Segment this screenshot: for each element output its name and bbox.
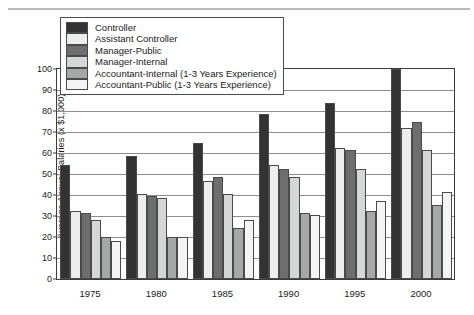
bar <box>432 205 442 279</box>
bar <box>279 169 289 279</box>
y-tick-label: 70 <box>42 127 52 137</box>
x-tick-label: 1985 <box>189 288 255 299</box>
y-tick-label: 50 <box>42 169 52 179</box>
legend-swatch <box>66 79 88 90</box>
y-tick-label: 20 <box>42 232 52 242</box>
bar <box>126 156 136 279</box>
legend-label: Manager-Public <box>95 45 162 56</box>
legend-item: Manager-Internal <box>66 56 277 67</box>
bar <box>233 228 243 279</box>
legend-label: Accountant-Internal (1-3 Years Experienc… <box>95 68 277 79</box>
bar-group: 1990 <box>256 69 322 279</box>
bar <box>401 128 411 279</box>
legend-item: Accountant-Public (1-3 Years Experience) <box>66 79 277 90</box>
plot-area: Average Annual Salaries (x $1,000) 01020… <box>56 68 455 280</box>
legend-swatch <box>66 68 88 79</box>
y-tick-label: 0 <box>47 274 52 284</box>
x-tick-label: 2000 <box>388 288 454 299</box>
bar <box>101 237 111 279</box>
legend-label: Accountant-Public (1-3 Years Experience) <box>95 79 271 90</box>
bar <box>244 220 254 279</box>
bars <box>322 69 388 279</box>
bar <box>223 194 233 279</box>
legend-swatch <box>66 45 88 56</box>
bars <box>123 69 189 279</box>
bar <box>167 237 177 279</box>
bar-group: 1995 <box>322 69 388 279</box>
chart-legend: ControllerAssistant ControllerManager-Pu… <box>60 17 284 95</box>
legend-item: Assistant Controller <box>66 33 277 44</box>
bar <box>412 122 422 279</box>
legend-label: Assistant Controller <box>95 33 177 44</box>
bars <box>189 69 255 279</box>
bars <box>57 69 123 279</box>
bar <box>60 165 70 279</box>
bar <box>391 69 401 279</box>
bar <box>310 215 320 279</box>
legend-item: Accountant-Internal (1-3 Years Experienc… <box>66 68 277 79</box>
bar <box>111 241 121 279</box>
bar-group: 1985 <box>189 69 255 279</box>
bar <box>356 169 366 279</box>
bar-group: 1975 <box>57 69 123 279</box>
x-tick-label: 1995 <box>322 288 388 299</box>
y-tick-label: 30 <box>42 211 52 221</box>
bar <box>345 150 355 279</box>
legend-item: Manager-Public <box>66 45 277 56</box>
legend-label: Manager-Internal <box>95 56 167 67</box>
y-tick-label: 100 <box>37 64 52 74</box>
bar <box>213 177 223 279</box>
bar <box>203 181 213 279</box>
x-tick-label: 1975 <box>57 288 123 299</box>
bar <box>137 194 147 279</box>
bar <box>177 237 187 279</box>
bar <box>442 192 452 279</box>
bar <box>81 213 91 279</box>
bar <box>289 177 299 279</box>
legend-swatch <box>66 22 88 33</box>
legend-label: Controller <box>95 22 136 33</box>
legend-swatch <box>66 33 88 44</box>
bar-group: 1980 <box>123 69 189 279</box>
bar <box>157 198 167 279</box>
legend-swatch <box>66 56 88 67</box>
y-tick-label: 40 <box>42 190 52 200</box>
bar <box>422 150 432 279</box>
bar <box>91 220 101 279</box>
bars <box>388 69 454 279</box>
y-tick-label: 10 <box>42 253 52 263</box>
x-tick-label: 1980 <box>123 288 189 299</box>
bar <box>366 211 376 279</box>
bar <box>300 213 310 279</box>
legend-item: Controller <box>66 22 277 33</box>
y-tick-label: 60 <box>42 148 52 158</box>
chart-figure: Average Annual Salaries (x $1,000) 01020… <box>0 0 474 315</box>
bar <box>269 165 279 279</box>
y-tick-label: 80 <box>42 106 52 116</box>
bar <box>325 103 335 279</box>
bar <box>147 196 157 279</box>
bar-group: 2000 <box>388 69 454 279</box>
bar <box>259 114 269 279</box>
bars <box>256 69 322 279</box>
top-divider <box>8 8 470 10</box>
bar <box>376 201 386 279</box>
x-tick-label: 1990 <box>256 288 322 299</box>
bar-groups: 197519801985199019952000 <box>57 69 454 279</box>
bar <box>335 148 345 279</box>
bar <box>70 211 80 279</box>
y-tick-label: 90 <box>42 85 52 95</box>
bar <box>193 143 203 279</box>
